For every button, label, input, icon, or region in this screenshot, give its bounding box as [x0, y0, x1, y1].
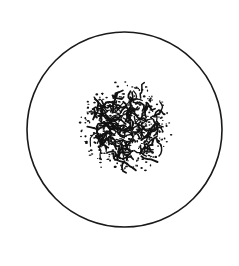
cell-diagram [0, 0, 239, 266]
stippled-nucleus [79, 81, 173, 172]
diagram-figure [0, 0, 239, 266]
